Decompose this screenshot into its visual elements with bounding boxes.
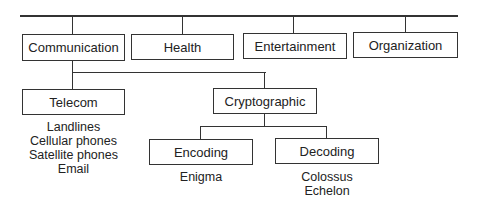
connector-encoding [200,126,201,139]
node-organization: Organization [353,32,458,58]
connector-communication-down [72,61,73,89]
node-label: Telecom [49,95,97,110]
connector-communication [72,16,73,34]
list-item: Enigma [149,170,253,184]
connector-entertainment [293,16,294,34]
list-item: Colossus [275,170,379,184]
node-cryptographic: Cryptographic [213,88,317,114]
node-encoding: Encoding [149,139,253,165]
telecom-items: Landlines Cellular phones Satellite phon… [22,120,125,176]
node-telecom: Telecom [22,89,125,115]
connector-cryptographic-branch [200,126,327,127]
decoding-items: Colossus Echelon [275,170,379,198]
node-label: Organization [369,38,443,53]
node-label: Encoding [174,145,228,160]
connector-communication-branch [72,72,266,73]
connector-decoding [326,126,327,138]
list-item: Echelon [275,184,379,198]
encoding-items: Enigma [149,170,253,184]
node-communication: Communication [22,34,125,61]
connector-health [182,16,183,34]
list-item: Satellite phones [22,148,125,162]
root-connector-line [20,15,458,17]
connector-cryptographic [264,72,265,89]
list-item: Landlines [22,120,125,134]
node-label: Cryptographic [225,94,306,109]
list-item: Cellular phones [22,134,125,148]
node-label: Communication [28,40,118,55]
node-entertainment: Entertainment [243,33,347,59]
node-label: Entertainment [255,39,336,54]
node-label: Decoding [300,144,355,159]
node-label: Health [164,40,202,55]
node-health: Health [131,34,234,60]
list-item: Email [22,162,125,176]
node-decoding: Decoding [275,138,379,164]
